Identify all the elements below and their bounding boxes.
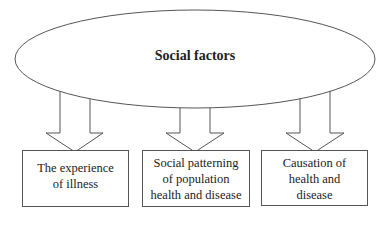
box-line: The experience: [23, 160, 128, 176]
box-line: health and disease: [143, 187, 249, 203]
box-line: Social patterning: [143, 155, 249, 171]
box-causation: Causation of health and disease: [261, 150, 368, 206]
box-line: disease: [262, 187, 367, 203]
box-line: of population: [143, 171, 249, 187]
box-line: health and: [262, 171, 367, 187]
box-social-patterning: Social patterning of population health a…: [142, 150, 250, 207]
box-line: Causation of: [262, 155, 367, 171]
box-experience-of-illness: The experience of illness: [22, 150, 129, 207]
root-label: Social factors: [95, 48, 295, 64]
box-line: of illness: [23, 176, 128, 192]
